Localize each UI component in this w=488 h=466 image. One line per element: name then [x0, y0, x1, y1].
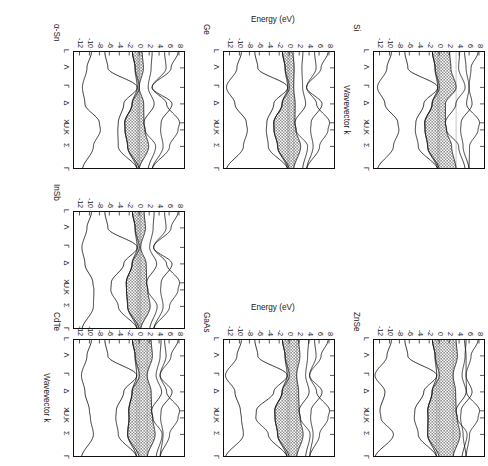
plot-area-gaas	[223, 339, 335, 457]
band-curves-cdte	[73, 340, 184, 457]
y-tick-label: -6	[407, 317, 414, 336]
y-tick-label: 6	[166, 29, 173, 48]
grid-cell-si: 86420-2-4-6-8-10-12LΛΓΔXU,KΣΓSiWavevecto…	[349, 0, 488, 221]
y-tick-label: -2	[427, 317, 434, 336]
y-tick-label: -4	[117, 317, 124, 336]
k-point-label: Σ	[213, 422, 220, 444]
y-tick-label: 4	[156, 317, 163, 336]
band-gap-region	[274, 52, 301, 169]
k-point-label: Γ	[363, 446, 370, 466]
y-tick-label: -6	[107, 317, 114, 336]
y-tick-label: 6	[166, 189, 173, 208]
y-tick-label: -12	[77, 29, 84, 48]
k-point-label: Γ	[363, 158, 370, 180]
y-tick-label: 8	[176, 317, 183, 336]
y-tick-label: -6	[407, 29, 414, 48]
y-tick-label: -10	[87, 29, 94, 48]
band-curves-insb	[73, 212, 184, 329]
y-tick-label: 0	[137, 189, 144, 208]
y-tick-label: -4	[267, 317, 274, 336]
band-curve	[307, 52, 330, 169]
y-tick-label: 2	[146, 29, 153, 48]
plot-area-si	[373, 51, 485, 169]
y-tick-label: 4	[156, 189, 163, 208]
y-tick-label: 6	[316, 29, 323, 48]
band-curves-ge	[223, 52, 334, 169]
y-tick-label: -2	[277, 29, 284, 48]
y-tick-label: -10	[387, 317, 394, 336]
y-tick-label: -10	[87, 189, 94, 208]
y-tick-label: -8	[397, 29, 404, 48]
band-curves-znse	[373, 340, 484, 457]
y-tick-label: 6	[166, 317, 173, 336]
plot-area-cdte	[73, 339, 185, 457]
y-tick-label: -12	[377, 317, 384, 336]
material-label-asn: α-Sn	[52, 24, 61, 41]
y-tick-label: -2	[277, 317, 284, 336]
y-tick-label: -12	[227, 29, 234, 48]
k-point-label: Σ	[363, 134, 370, 156]
k-point-label: Γ	[213, 446, 220, 466]
y-axis-title: Energy (eV)	[251, 15, 295, 24]
grid-cell-ge: 86420-2-4-6-8-10-12LΛΓΔXU,KΣΓGeEnergy (e…	[199, 0, 349, 221]
plot-area-ge	[223, 51, 335, 169]
y-tick-label: 2	[146, 189, 153, 208]
k-point-label: Γ	[213, 158, 220, 180]
band-curve	[466, 340, 479, 457]
y-tick-label: -6	[107, 189, 114, 208]
grid-cell-insb-cdte: 86420-2-4-6-8-10-12LΛΓΔXU,KΣΓInSb 86420-…	[49, 221, 199, 455]
rotated-figure-wrapper: 86420-2-4-6-8-10-12LΛΓΔXU,KΣΓSiWavevecto…	[11, 0, 488, 455]
y-tick-label: -12	[377, 29, 384, 48]
y-axis-title: Energy (eV)	[251, 303, 295, 312]
y-tick-label: -8	[97, 317, 104, 336]
y-tick-label: -6	[257, 317, 264, 336]
y-tick-label: 2	[446, 317, 453, 336]
material-label-si: Si	[352, 24, 361, 31]
y-tick-label: 4	[156, 29, 163, 48]
y-tick-label: -8	[247, 317, 254, 336]
y-tick-label: -4	[417, 29, 424, 48]
material-label-cdte: CdTe	[52, 312, 61, 331]
material-label-gaas: GaAs	[202, 312, 211, 332]
y-tick-label: -4	[267, 29, 274, 48]
y-tick-label: 6	[466, 317, 473, 336]
x-axis-title: Wavevector k	[42, 339, 51, 457]
y-tick-label: 8	[476, 29, 483, 48]
y-tick-label: 8	[176, 29, 183, 48]
k-point-label: Γ	[63, 158, 70, 180]
y-tick-label: 8	[176, 189, 183, 208]
y-tick-label: -6	[257, 29, 264, 48]
figure-canvas: 86420-2-4-6-8-10-12LΛΓΔXU,KΣΓSiWavevecto…	[0, 0, 488, 466]
material-label-insb: InSb	[52, 184, 61, 201]
y-tick-label: -2	[127, 317, 134, 336]
y-tick-label: -6	[107, 29, 114, 48]
y-tick-label: -10	[387, 29, 394, 48]
y-tick-label: 4	[456, 317, 463, 336]
y-tick-label: 2	[146, 317, 153, 336]
band-curve	[82, 212, 94, 329]
y-tick-label: 4	[456, 29, 463, 48]
k-point-label: Σ	[63, 422, 70, 444]
y-tick-label: -2	[127, 189, 134, 208]
band-curve	[82, 52, 100, 169]
grid-cell-znse: 86420-2-4-6-8-10-12LΛΓΔXU,KΣΓZnSe	[349, 221, 488, 455]
y-tick-label: 6	[466, 29, 473, 48]
y-tick-label: -12	[77, 317, 84, 336]
y-tick-label: -10	[87, 317, 94, 336]
y-tick-label: 0	[287, 317, 294, 336]
y-tick-label: 8	[476, 317, 483, 336]
k-point-label: Γ	[63, 446, 70, 466]
band-gap-region	[428, 340, 460, 457]
y-tick-label: 2	[296, 317, 303, 336]
y-tick-label: 0	[137, 29, 144, 48]
y-tick-label: 0	[137, 317, 144, 336]
band-curve	[377, 52, 398, 169]
y-tick-label: 4	[306, 29, 313, 48]
y-tick-label: -4	[117, 189, 124, 208]
y-tick-label: 0	[437, 317, 444, 336]
band-curve	[375, 340, 393, 457]
plot-area-insb	[73, 211, 185, 329]
band-curves-gaas	[223, 340, 334, 457]
y-tick-label: 0	[437, 29, 444, 48]
band-structure-panel-cdte: 86420-2-4-6-8-10-12LΛΓΔXU,KΣΓCdTeWavevec…	[13, 313, 185, 466]
